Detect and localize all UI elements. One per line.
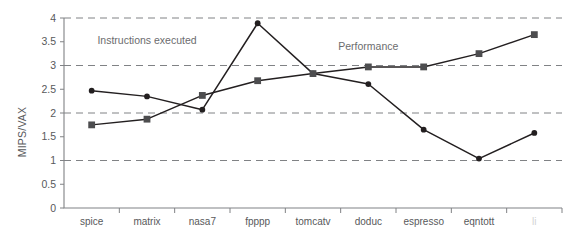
point-doduc-instructions bbox=[365, 81, 371, 87]
point-li-performance bbox=[531, 31, 538, 38]
y-axis-title: MIPS/VAX bbox=[16, 107, 28, 157]
x-tick-label-li: li bbox=[532, 216, 536, 227]
point-spice-performance bbox=[88, 121, 95, 128]
x-tick-label-doduc: doduc bbox=[355, 216, 382, 227]
x-tick-label-fpppp: fpppp bbox=[245, 216, 270, 227]
point-nasa7-performance bbox=[199, 92, 206, 99]
x-tick-label-matrix: matrix bbox=[133, 216, 160, 227]
point-spice-instructions bbox=[89, 88, 95, 94]
y-tick-label-2: 2 bbox=[50, 107, 56, 119]
y-tick-label-1: 1 bbox=[50, 154, 56, 166]
annotation-instructions-executed: Instructions executed bbox=[97, 34, 196, 46]
point-eqntott-instructions bbox=[476, 156, 482, 162]
point-doduc-performance bbox=[365, 64, 372, 71]
y-tick-label-4: 4 bbox=[50, 12, 56, 24]
y-tick-label-1.5: 1.5 bbox=[41, 130, 56, 142]
point-li-instructions bbox=[531, 130, 537, 136]
x-tick-label-tomcatv: tomcatv bbox=[295, 216, 330, 227]
y-tick-label-3.5: 3.5 bbox=[41, 35, 56, 47]
chart-figure: 00.511.522.533.54 spicematrixnasa7fppppt… bbox=[0, 0, 576, 242]
point-tomcatv-performance bbox=[310, 70, 317, 77]
point-nasa7-instructions bbox=[199, 107, 205, 113]
point-espresso-performance bbox=[420, 64, 427, 71]
point-fpppp-instructions bbox=[255, 20, 261, 26]
y-tick-label-0: 0 bbox=[50, 202, 56, 214]
point-matrix-performance bbox=[144, 116, 151, 123]
point-matrix-instructions bbox=[144, 93, 150, 99]
y-tick-label-2.5: 2.5 bbox=[41, 83, 56, 95]
y-tick-label-3: 3 bbox=[50, 59, 56, 71]
x-tick-label-espresso: espresso bbox=[403, 216, 444, 227]
y-tick-label-0.5: 0.5 bbox=[41, 178, 56, 190]
point-eqntott-performance bbox=[476, 50, 483, 57]
x-tick-label-nasa7: nasa7 bbox=[189, 216, 217, 227]
x-tick-label-eqntott: eqntott bbox=[464, 216, 495, 227]
point-fpppp-performance bbox=[254, 77, 261, 84]
chart-background bbox=[0, 0, 576, 242]
annotation-performance: Performance bbox=[338, 40, 398, 52]
point-espresso-instructions bbox=[421, 127, 427, 133]
mips-vax-line-chart: 00.511.522.533.54 spicematrixnasa7fppppt… bbox=[0, 0, 576, 242]
x-axis-tick-labels: spicematrixnasa7fpppptomcatvdoducespress… bbox=[80, 216, 537, 227]
x-tick-label-spice: spice bbox=[80, 216, 104, 227]
